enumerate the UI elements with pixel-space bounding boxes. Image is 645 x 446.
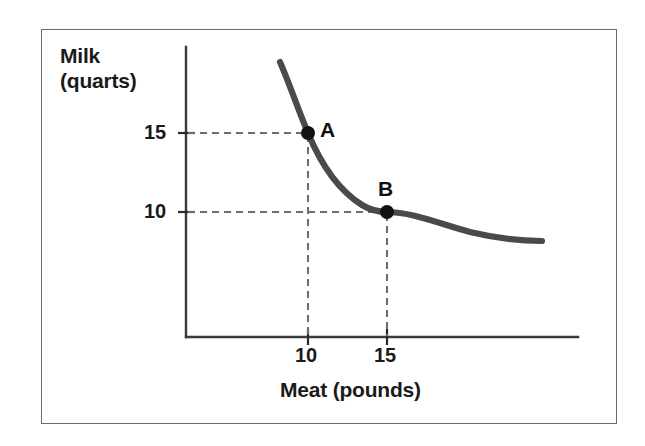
x-tick-label-10: 10 [295,344,317,367]
y-axis-label-line1: Milk [60,43,137,68]
data-point-label-a: A [320,118,335,142]
x-axis-label: Meat (pounds) [280,378,421,402]
y-axis-label-line2: (quarts) [60,68,137,93]
x-tick-label-15: 15 [374,344,396,367]
chart-page: Milk (quarts) Meat (pounds) 15 10 10 15 … [0,0,645,446]
data-point-label-b: B [378,177,393,201]
y-tick-label-10: 10 [144,200,166,223]
y-axis-label: Milk (quarts) [60,43,137,93]
data-point-b-marker [380,205,394,219]
indifference-curve [280,62,542,241]
data-point-a-marker [301,126,315,140]
y-tick-label-15: 15 [144,121,166,144]
